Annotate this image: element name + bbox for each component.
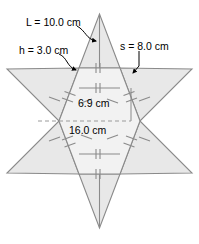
label-apothem: h = 3.0 cm [19, 45, 68, 56]
label-inner-width: 6.9 cm [78, 98, 110, 109]
label-outer-width: 16.0 cm [69, 125, 106, 136]
star-figure [0, 0, 199, 244]
label-slant-height: L = 10.0 cm [26, 17, 81, 28]
label-side: s = 8.0 cm [120, 41, 169, 52]
diagram-canvas: L = 10.0 cm h = 3.0 cm s = 8.0 cm 6.9 cm… [0, 0, 199, 244]
